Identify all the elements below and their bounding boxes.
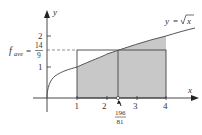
fave-sub: ave <box>14 50 23 57</box>
x-tick-label-4: 4 <box>163 101 168 111</box>
x-axis-arrow-icon <box>191 95 199 101</box>
y-tick-label-1: 1 <box>38 62 43 72</box>
x-tick-label-1: 1 <box>75 101 80 111</box>
x-tick-label-2: 2 <box>102 101 107 111</box>
x-axis-label: x <box>187 85 192 95</box>
fave-denominator: 9 <box>37 51 41 60</box>
func-label-x: x <box>186 16 191 26</box>
fave-f: f <box>9 45 13 56</box>
c-numerator: 196 <box>115 109 126 117</box>
average-value-diagram: y x 1 2 3 4 1 2 f ave = 14 9 196 81 y = … <box>0 0 202 135</box>
x-tick-label-3: 3 <box>133 101 138 111</box>
func-label-eq: = <box>173 16 178 26</box>
shaded-area-under-curve <box>77 36 166 98</box>
y-axis-arrow-icon <box>44 10 50 18</box>
c-denominator: 81 <box>117 118 125 126</box>
c-point-marker <box>116 96 119 99</box>
y-tick-label-2: 2 <box>38 31 43 41</box>
y-axis-label: y <box>52 7 57 17</box>
c-pointer-arrow-icon <box>117 100 121 104</box>
fave-equals: = <box>26 46 31 56</box>
fave-numerator: 14 <box>35 41 43 50</box>
func-label-y: y <box>164 16 169 26</box>
